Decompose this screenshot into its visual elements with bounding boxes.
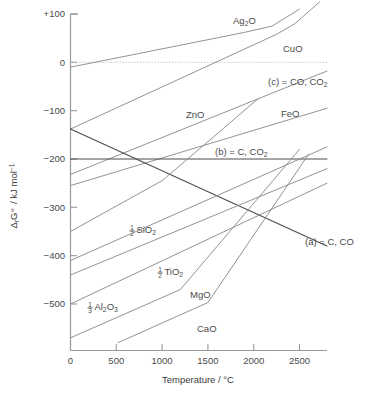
ellingham-diagram: +1000−100−200−300−400−500 05001000150020… — [0, 0, 376, 397]
y-title-exponent: −1 — [8, 163, 15, 171]
y-title-G: G — [8, 213, 19, 220]
series-line-Ag2O — [71, 9, 300, 67]
series-label-SiO2_half: 12SiO2 — [129, 224, 156, 238]
series-label-a_C_CO: (a) = C, CO — [305, 236, 354, 247]
series-label-Ag2O: Ag2O — [233, 15, 256, 27]
series-label-TiO2_half: 12TiO2 — [157, 266, 183, 280]
x-tick-label: 2000 — [243, 355, 264, 366]
series-label-MgO: MgO — [190, 289, 211, 300]
y-tick-label: 0 — [60, 57, 65, 68]
series-label-text: MgO — [190, 289, 211, 300]
series-label-text: ZnO — [186, 109, 204, 120]
series-label-text: (b) = C, CO2 — [215, 146, 268, 158]
series-label-text: SiO2 — [136, 224, 156, 236]
series-label-text: FeO — [281, 108, 299, 119]
subscript-2: 3 — [114, 306, 118, 313]
series-label-CaO: CaO — [197, 323, 217, 334]
x-tick-label: 1500 — [197, 355, 218, 366]
series-label-FeO: FeO — [281, 108, 299, 119]
series-label-text: CaO — [197, 323, 217, 334]
label-tail: O — [248, 15, 255, 26]
svg-text:ΔrG⦵ / kJ mol−1: ΔrG⦵ / kJ mol−1 — [8, 163, 20, 228]
series-label-text: CuO — [283, 43, 303, 54]
y-tick-label: +100 — [44, 8, 65, 19]
series-label-text: Al2O3 — [94, 301, 118, 313]
x-tick-label: 2500 — [289, 355, 310, 366]
series-label-Al2O3_third: 13Al2O3 — [87, 301, 118, 315]
y-tick-label: −200 — [44, 153, 65, 164]
y-tick-label: −500 — [44, 298, 65, 309]
x-axis-title: Temperature / °C — [162, 374, 234, 385]
y-tick-label: −100 — [44, 105, 65, 116]
subscript: 2 — [264, 151, 268, 158]
fraction-denominator: 2 — [158, 272, 162, 279]
x-tick-group: 05001000150020002500 — [68, 344, 310, 366]
y-title-units: / kJ mol — [8, 171, 19, 206]
subscript: 2 — [152, 229, 156, 236]
series-line-CaO — [118, 154, 309, 343]
series-line-ZnO — [71, 99, 259, 232]
series-label-text: (c) = CO, CO2 — [268, 76, 328, 88]
series-label-ZnO: ZnO — [186, 109, 204, 120]
series-label-c_CO_CO2: (c) = CO, CO2 — [268, 76, 328, 88]
fraction-denominator: 3 — [88, 307, 92, 314]
series-label-CuO: CuO — [283, 43, 303, 54]
label-mid: O — [107, 301, 114, 312]
series-label-text: (a) = C, CO — [305, 236, 354, 247]
fraction-denominator: 2 — [130, 230, 134, 237]
chart-svg: +1000−100−200−300−400−500 05001000150020… — [0, 0, 376, 397]
x-tick-label: 0 — [68, 355, 73, 366]
series-label-b_C_CO2: (b) = C, CO2 — [215, 146, 268, 158]
y-tick-label: −400 — [44, 250, 65, 261]
series-label-text: TiO2 — [164, 266, 183, 278]
series-label-text: Ag2O — [233, 15, 256, 27]
x-tick-label: 500 — [108, 355, 124, 366]
x-tick-label: 1000 — [152, 355, 173, 366]
y-axis-title: ΔrG⦵ / kJ mol−1 — [8, 163, 20, 228]
subscript: 2 — [324, 81, 328, 88]
subscript: 2 — [179, 271, 183, 278]
y-tick-label: −300 — [44, 202, 65, 213]
